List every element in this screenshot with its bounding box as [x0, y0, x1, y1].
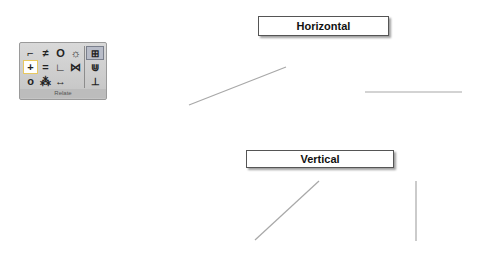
sketch-canvas	[0, 0, 480, 257]
horizontal-before-line[interactable]	[189, 67, 286, 105]
vertical-before-line[interactable]	[255, 181, 319, 240]
